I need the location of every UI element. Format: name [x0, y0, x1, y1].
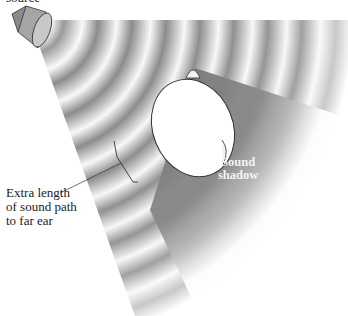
shadow-label-line-2: shadow	[218, 169, 258, 182]
source-label-text: source	[6, 0, 40, 5]
sound-shadow-label: Sound shadow	[218, 156, 258, 182]
sound-shadow-diagram: source Extra length of sound path to far…	[0, 0, 348, 316]
diagram-canvas	[0, 0, 348, 316]
extra-label-line-1: Extra length	[6, 186, 77, 200]
sound-source-label: source	[6, 0, 40, 5]
extra-label-line-3: to far ear	[6, 214, 77, 228]
extra-label-line-2: of sound path	[6, 200, 77, 214]
extra-length-label: Extra length of sound path to far ear	[6, 186, 77, 228]
